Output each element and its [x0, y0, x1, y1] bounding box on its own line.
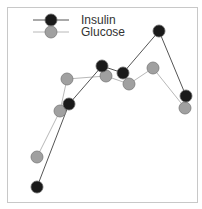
glucose-marker: Glucose: 61	[123, 78, 135, 90]
insulin-marker: Insulin: 70	[96, 60, 108, 72]
legend-marker-icon	[45, 14, 57, 26]
insulin-marker: Insulin: 66	[117, 67, 129, 79]
glucose-marker: Glucose: 48	[179, 102, 191, 114]
glucose-marker: Glucose: 69	[147, 62, 159, 74]
glucose-marker: Glucose: 63	[61, 73, 73, 85]
insulin-marker: Insulin: 54	[180, 90, 192, 102]
legend-label: Glucose	[81, 25, 125, 39]
glucose-marker: Glucose: 23	[31, 151, 43, 163]
insulin-marker: Insulin: 88	[153, 25, 165, 37]
line-chart: Glucose: 23Glucose: 47Glucose: 63Glucose…	[0, 0, 202, 209]
insulin-marker: Insulin: 50	[63, 98, 75, 110]
legend-marker-icon	[45, 26, 57, 38]
insulin-marker: Insulin: 8	[31, 181, 43, 193]
